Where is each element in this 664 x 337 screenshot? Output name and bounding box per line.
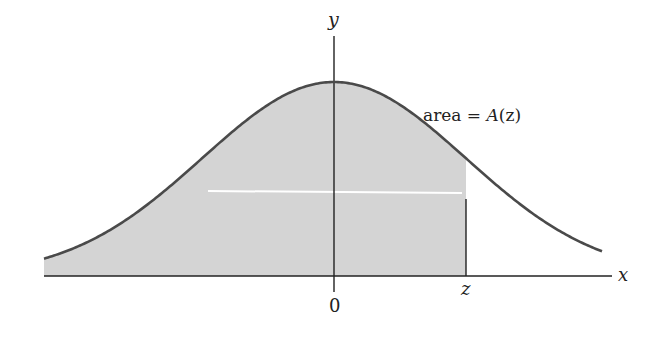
z-tick-label: z	[461, 280, 470, 298]
area-prefix: area =	[423, 105, 487, 125]
shaded-area-region	[44, 82, 466, 276]
area-function: A	[487, 105, 499, 125]
x-axis-label: x	[618, 266, 628, 284]
normal-distribution-chart	[0, 0, 664, 337]
origin-tick-label: 0	[329, 297, 340, 315]
y-axis-label: y	[328, 10, 339, 29]
area-annotation: area = A(z)	[423, 107, 521, 124]
area-argument: (z)	[499, 105, 521, 125]
